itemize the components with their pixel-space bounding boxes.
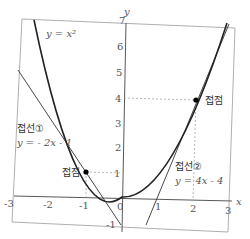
x-tick-m3: -3 [4,198,14,209]
y-tick-6: 6 [117,41,123,52]
tangent1-equation: y = - 2x - 1 [16,137,72,148]
tangent-point-1 [83,169,88,174]
y-tick-7: 7 [119,15,125,26]
x-axis-label: x [236,196,242,207]
tangent-point-2-label: 접점 [205,95,223,106]
tangent2-equation: y = 4x - 4 [174,175,224,186]
y-tick-3: 3 [115,118,121,129]
x-tick-1: 1 [155,201,161,212]
y-tick-2: 2 [115,142,121,153]
tangent-diagram: y x 7 6 5 4 3 2 1 -1 -3 -2 -1 0 1 2 3 y … [0,0,250,239]
x-tick-0: 0 [117,201,123,212]
y-tick-1: 1 [114,168,120,179]
curve-label: y = x² [45,28,76,39]
y-tick-m1: -1 [106,219,116,230]
y-tick-4: 4 [115,93,121,104]
y-tick-5: 5 [116,67,122,78]
x-tick-m2: -2 [43,199,53,210]
x-tick-m1: -1 [79,200,89,211]
tangent1-name: 접선① [17,123,44,134]
tangent2-name: 접선② [175,161,202,172]
guide-y-4 [124,98,196,100]
tangent-point-2 [193,97,198,102]
x-tick-3: 3 [225,205,231,216]
tangent-point-1-label: 접점 [62,167,80,178]
x-tick-2: 2 [190,203,196,214]
